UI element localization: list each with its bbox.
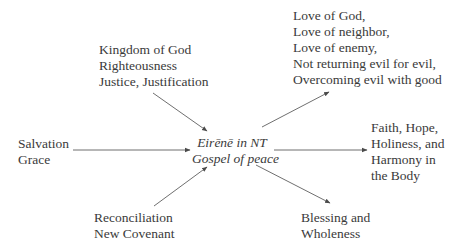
node-blessing-line-2: Wholeness [301,226,370,242]
node-salvation: Salvation Grace [18,136,69,168]
node-love-line-1: Love of God, [293,8,442,24]
node-reconciliation-line-2: New Covenant [94,226,175,242]
node-love-line-5: Overcoming evil with good [293,72,442,88]
node-faith-line-2: Holiness, and [371,136,445,152]
node-salvation-line-2: Grace [18,152,69,168]
node-faith-line-1: Faith, Hope, [371,120,445,136]
arrow-reconciliation-to-center [154,167,207,206]
node-kingdom-line-3: Justice, Justification [99,74,208,90]
node-faith-line-3: Harmony in [371,152,445,168]
node-kingdom-line-1: Kingdom of God [99,42,208,58]
node-blessing-line-1: Blessing and [301,210,370,226]
node-reconciliation-line-1: Reconciliation [94,210,175,226]
node-kingdom: Kingdom of God Righteousness Justice, Ju… [99,42,208,90]
node-love: Love of God, Love of neighbor, Love of e… [293,8,442,88]
node-salvation-line-1: Salvation [18,136,69,152]
node-center-line-1: Eirēnē in NT [192,135,272,151]
node-love-line-4: Not returning evil for evil, [293,56,442,72]
arrow-center-to-blessing [256,165,330,203]
node-kingdom-line-2: Righteousness [99,58,208,74]
node-love-line-3: Love of enemy, [293,40,442,56]
node-faith-line-4: the Body [371,168,445,184]
node-center-eirene: Eirēnē in NT Gospel of peace [192,135,272,167]
node-love-line-2: Love of neighbor, [293,24,442,40]
node-faith: Faith, Hope, Holiness, and Harmony in th… [371,120,445,184]
node-reconciliation: Reconciliation New Covenant [94,210,175,242]
node-blessing: Blessing and Wholeness [301,210,370,242]
arrow-center-to-love [262,92,329,127]
node-center-line-2: Gospel of peace [192,151,272,167]
arrow-kingdom-to-center [153,93,207,131]
